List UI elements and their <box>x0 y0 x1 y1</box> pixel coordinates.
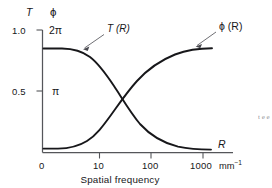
curve-t-of-r <box>44 49 212 150</box>
y-tick-label-pi: π <box>52 85 59 97</box>
leader-line-phi <box>197 32 216 46</box>
x-tick-label-10: 10 <box>93 160 104 171</box>
y-tick-label-1-0: 1.0 <box>12 25 26 36</box>
figure-root: T ϕ 1.0 2π 0.5 π 0 10 100 1000 mm −1 R S… <box>0 0 272 188</box>
y-axis-symbol-T: T <box>26 6 34 18</box>
curve-label-t: T (R) <box>107 23 130 34</box>
curve-phi-of-r <box>44 48 213 148</box>
x-axis-unit: mm <box>219 161 235 171</box>
plot-canvas: T ϕ 1.0 2π 0.5 π 0 10 100 1000 mm −1 R S… <box>0 0 272 188</box>
x-axis-unit-exponent: −1 <box>235 159 243 166</box>
x-tick-label-100: 100 <box>142 160 158 171</box>
x-tick-label-1000: 1000 <box>190 160 212 171</box>
x-axis-caption: Spatial frequency <box>80 174 159 185</box>
curve-label-phi: ϕ (R) <box>219 20 242 32</box>
x-tick-label-0: 0 <box>39 160 44 171</box>
y-tick-label-0-5: 0.5 <box>12 86 26 97</box>
y-axis-symbol-phi: ϕ <box>50 6 56 18</box>
y-tick-label-2pi: 2π <box>49 24 62 36</box>
leader-line-t <box>85 35 105 49</box>
x-axis-symbol-R: R <box>218 138 226 150</box>
